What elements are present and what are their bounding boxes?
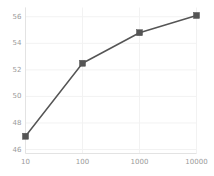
y-tick-label: 50 (13, 93, 22, 100)
x-tick-label: 100 (76, 159, 89, 166)
y-tick-label: 52 (13, 66, 22, 73)
chart-figure: 464850525456 10100100010000 (0, 0, 214, 176)
line-chart-plot (0, 0, 214, 176)
x-tick-label: 10 (21, 159, 30, 166)
y-tick-label: 46 (13, 146, 22, 153)
data-point-marker (23, 133, 29, 139)
y-tick-label: 48 (13, 119, 22, 126)
x-tick-label: 1000 (131, 159, 149, 166)
x-tick-label: 10000 (185, 159, 207, 166)
data-point-marker (80, 60, 86, 66)
data-point-marker (194, 12, 200, 18)
data-point-marker (137, 30, 143, 36)
y-tick-label: 56 (13, 13, 22, 20)
y-tick-label: 54 (13, 40, 22, 47)
